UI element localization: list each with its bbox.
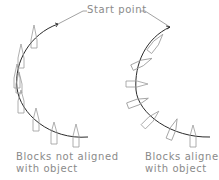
block-icon [131,56,153,71]
block-icon [73,124,79,147]
left-caption-line1: Blocks not aligned [16,151,119,162]
block-icon [141,109,161,129]
block-icon [126,81,148,87]
path-arc-left [17,24,88,137]
leader-line-left [58,11,87,24]
blocks-not-aligned [14,25,79,147]
right-caption-line1: Blocks aligned [145,151,219,162]
path-arc-right [136,27,210,137]
left-caption-line2: with object [16,163,78,174]
block-icon [31,25,37,48]
start-point-label: Start point [87,4,147,15]
block-icon [166,118,180,141]
right-caption-line2: with object [145,163,207,174]
blocks-aligned [126,32,196,147]
